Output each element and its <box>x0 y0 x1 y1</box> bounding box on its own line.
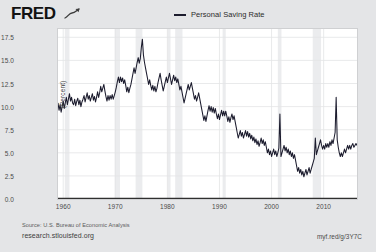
chart-plot-area: (Percent) <box>57 28 358 200</box>
chart-header: FRED Personal Saving Rate <box>0 0 376 27</box>
chart-canvas <box>58 29 357 199</box>
chart-short-url[interactable]: myf.red/g/3Y7C <box>317 233 362 240</box>
legend-series-label: Personal Saving Rate <box>191 10 265 19</box>
y-axis-title: (Percent) <box>59 55 66 135</box>
recession-bands <box>65 29 321 199</box>
x-tick-label: 2010 <box>304 203 344 210</box>
chart-footer: Source: U.S. Bureau of Economic Analysis… <box>0 218 376 252</box>
fred-squiggle-chart-icon <box>64 8 81 20</box>
y-tick-label: 2.5 <box>0 172 14 179</box>
y-tick-label: 10.0 <box>0 103 14 110</box>
fred-chart-card: FRED Personal Saving Rate (Percent) 0.02… <box>0 0 376 252</box>
y-tick-label: 7.5 <box>0 126 14 133</box>
y-tick-label: 5.0 <box>0 149 14 156</box>
fred-site-url[interactable]: research.stlouisfed.org <box>22 232 94 239</box>
source-attribution: Source: U.S. Bureau of Economic Analysis <box>22 222 130 228</box>
recession-band <box>313 29 321 199</box>
series-line <box>58 39 357 177</box>
recession-band <box>136 29 143 199</box>
x-tick-label: 1960 <box>43 203 83 210</box>
y-tick-label: 12.5 <box>0 80 14 87</box>
x-tick-label: 2000 <box>252 203 292 210</box>
x-tick-label: 1990 <box>199 203 239 210</box>
chart-legend: Personal Saving Rate <box>174 10 265 19</box>
x-tick-label: 1970 <box>95 203 135 210</box>
recession-band <box>167 29 170 199</box>
y-tick-label: 0.0 <box>0 196 14 203</box>
x-tick-label: 1980 <box>147 203 187 210</box>
data-series <box>58 39 357 177</box>
fred-logo[interactable]: FRED <box>11 5 56 22</box>
legend-color-swatch <box>174 14 186 16</box>
y-tick-label: 15.0 <box>0 57 14 64</box>
y-tick-label: 17.5 <box>0 34 14 41</box>
recession-band <box>175 29 182 199</box>
